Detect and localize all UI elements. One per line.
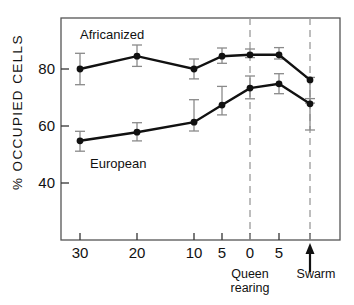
queen-rearing-label-line2: rearing: [231, 281, 270, 295]
data-point: [134, 53, 141, 60]
africanized-series-label: Africanized: [80, 27, 144, 42]
data-point: [134, 129, 141, 136]
occupied-cells-line-chart: 80 60 40 % OCCUPIED CELLS 30 20 10 5 0 5: [0, 0, 354, 305]
data-point: [191, 119, 198, 126]
x-tick-label-30: 30: [72, 244, 89, 261]
data-point: [219, 53, 226, 60]
chart-background: [0, 0, 354, 305]
data-point: [77, 137, 84, 144]
x-tick-label-0: 0: [246, 244, 254, 261]
queen-rearing-label-line1: Queen: [231, 267, 269, 281]
european-series-label: European: [90, 156, 146, 171]
y-axis-title: % OCCUPIED CELLS: [10, 34, 25, 190]
data-point: [219, 102, 226, 109]
y-tick-label-80: 80: [38, 60, 55, 77]
x-tick-label-5b: 5: [275, 244, 283, 261]
data-point: [77, 66, 84, 73]
chart-container: 80 60 40 % OCCUPIED CELLS 30 20 10 5 0 5: [0, 0, 354, 305]
data-point: [276, 80, 283, 87]
data-point: [307, 77, 314, 84]
data-point: [247, 85, 254, 92]
data-point: [191, 66, 198, 73]
x-tick-label-20: 20: [129, 244, 146, 261]
y-tick-label-40: 40: [38, 174, 55, 191]
data-point: [247, 51, 254, 58]
x-tick-label-10: 10: [186, 244, 203, 261]
x-tick-label-5a: 5: [218, 244, 226, 261]
data-point: [307, 100, 314, 107]
data-point: [276, 51, 283, 58]
swarm-label: Swarm: [297, 267, 336, 281]
y-tick-label-60: 60: [38, 117, 55, 134]
